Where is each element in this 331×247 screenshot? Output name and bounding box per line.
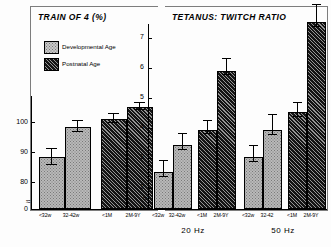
bar-20hz-lt32w bbox=[154, 172, 173, 209]
right-xlabel-20hz-2m-9y: 2M-9Y bbox=[210, 212, 232, 218]
panel-tetanus-twitch-ratio: TETANUS: TWITCH RATIO 7 6 5 4 3 2 ≈ 0 bbox=[0, 0, 331, 247]
right-ytick-label-7: 7 bbox=[130, 33, 144, 40]
errorbar-cap-bottom-20hz-lt32w bbox=[159, 176, 168, 177]
right-xlabel-50hz-2m-9y: 2M-9Y bbox=[300, 212, 322, 218]
right-ytick-label-0: 0 bbox=[130, 204, 144, 211]
errorbar-cap-top-20hz-32-42w bbox=[178, 133, 187, 134]
errorbar-50hz-lt32w bbox=[253, 146, 254, 162]
errorbar-cap-bottom-20hz-lt1m bbox=[203, 133, 212, 134]
errorbar-cap-top-50hz-32-42 bbox=[268, 114, 277, 115]
errorbar-cap-top-50hz-2m-9y bbox=[312, 4, 321, 5]
errorbar-20hz-lt32w bbox=[163, 161, 164, 177]
errorbar-20hz-32-42w bbox=[182, 134, 183, 150]
bar-20hz-32-42w bbox=[173, 145, 192, 209]
right-ytick-label-5: 5 bbox=[130, 93, 144, 100]
bar-50hz-lt32w bbox=[244, 157, 263, 209]
right-xlabel-50hz-32-42: 32-42 bbox=[256, 212, 278, 218]
errorbar-cap-top-20hz-lt32w bbox=[159, 160, 168, 161]
errorbar-cap-top-20hz-lt1m bbox=[203, 120, 212, 121]
figure-canvas: TRAIN OF 4 (%) Developmental Age Postnat… bbox=[0, 0, 331, 247]
bar-20hz-lt1m bbox=[198, 130, 217, 209]
right-ytick-label-2: 2 bbox=[130, 183, 144, 190]
errorbar-cap-top-50hz-lt1m bbox=[293, 102, 302, 103]
right-ytick-label-6: 6 bbox=[130, 63, 144, 70]
group-label-20hz: 20 Hz bbox=[163, 226, 223, 235]
errorbar-cap-bottom-50hz-lt32w bbox=[249, 161, 258, 162]
right-ytick-label-4: 4 bbox=[130, 123, 144, 130]
bar-50hz-32-42 bbox=[263, 130, 282, 209]
errorbar-20hz-2m-9y bbox=[226, 59, 227, 75]
errorbar-50hz-32-42 bbox=[272, 115, 273, 135]
right-x-axis bbox=[148, 209, 327, 210]
errorbar-50hz-lt1m bbox=[297, 103, 298, 117]
bar-50hz-lt1m bbox=[288, 112, 307, 209]
group-label-50hz: 50 Hz bbox=[253, 226, 313, 235]
errorbar-cap-bottom-20hz-32-42w bbox=[178, 149, 187, 150]
bar-20hz-2m-9y bbox=[217, 71, 236, 209]
errorbar-cap-bottom-50hz-2m-9y bbox=[312, 26, 321, 27]
errorbar-cap-top-50hz-lt32w bbox=[249, 145, 258, 146]
errorbar-cap-bottom-20hz-2m-9y bbox=[222, 74, 231, 75]
bar-50hz-2m-9y bbox=[307, 22, 326, 209]
right-axis-break-mark: ≈ bbox=[143, 196, 147, 202]
right-bar-group-50hz bbox=[238, 0, 328, 209]
errorbar-cap-bottom-50hz-32-42 bbox=[268, 134, 277, 135]
errorbar-cap-top-20hz-2m-9y bbox=[222, 58, 231, 59]
right-xlabel-20hz-32-42w: 32-42w bbox=[166, 212, 188, 218]
errorbar-50hz-2m-9y bbox=[316, 5, 317, 27]
errorbar-cap-bottom-50hz-lt1m bbox=[293, 116, 302, 117]
right-ytick-label-3: 3 bbox=[130, 153, 144, 160]
right-bar-group-20hz bbox=[148, 0, 238, 209]
